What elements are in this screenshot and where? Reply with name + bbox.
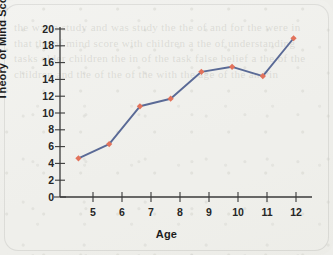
data-point-5 — [75, 155, 81, 161]
axis-lines — [60, 27, 312, 197]
series-line — [78, 38, 293, 158]
chart-canvas — [0, 0, 333, 255]
chart-figure: the was a study and was study the the of… — [0, 0, 333, 255]
series-markers — [75, 35, 296, 161]
data-point-10 — [229, 64, 235, 70]
